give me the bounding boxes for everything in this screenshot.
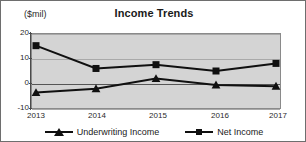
- triangle-marker-icon: [45, 127, 73, 137]
- x-tick-2013: 2013: [27, 111, 45, 120]
- x-tick-2017: 2017: [269, 111, 287, 120]
- chart-container: Income Trends ($mil) 20 10 0 -10 2013 20…: [0, 0, 306, 142]
- x-tick-2016: 2016: [211, 111, 229, 120]
- square-marker-icon: [185, 127, 213, 137]
- x-axis-tick-labels: 2013 2014 2015 2016 2017: [1, 111, 306, 123]
- gridline-minus10: [32, 109, 280, 110]
- series-marker-net-income: [153, 61, 160, 68]
- series-marker-net-income: [273, 60, 280, 67]
- x-tick-2015: 2015: [149, 111, 167, 120]
- series-marker-net-income: [33, 42, 40, 49]
- y-axis-tick-labels: 20 10 0 -10: [1, 33, 29, 109]
- y-tick-0: 0: [3, 79, 29, 87]
- page-title: Income Trends: [1, 7, 306, 20]
- x-tick-2014: 2014: [88, 111, 106, 120]
- series-marker-net-income: [93, 65, 100, 72]
- legend-item-net-income[interactable]: Net Income: [185, 127, 263, 137]
- series-plot: [31, 33, 281, 109]
- y-axis-unit-label: ($mil): [24, 9, 47, 20]
- legend: Underwriting Income Net Income: [1, 125, 306, 139]
- series-marker-net-income: [213, 68, 220, 75]
- y-tick-10: 10: [3, 54, 29, 62]
- legend-item-underwriting-income[interactable]: Underwriting Income: [45, 127, 160, 137]
- legend-label-net-income: Net Income: [217, 127, 263, 137]
- legend-label-underwriting-income: Underwriting Income: [77, 127, 160, 137]
- y-tick-20: 20: [3, 29, 29, 37]
